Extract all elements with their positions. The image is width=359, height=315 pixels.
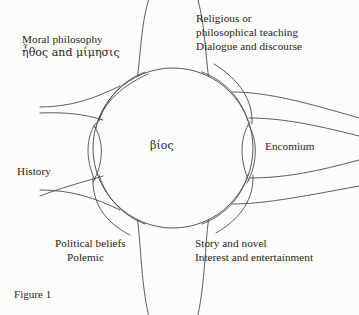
label-center-bios: βίος	[150, 139, 174, 153]
political-beliefs-line-2: Polemic	[55, 250, 126, 264]
political-beliefs-line-1: Political beliefs	[55, 236, 126, 250]
petal-lower-right-outer-curve	[232, 186, 359, 204]
petal-upper-right-outer-curve	[232, 92, 359, 118]
petal-top-left-curve	[138, 0, 149, 77]
religious-teaching-line-1: Religious or	[196, 11, 302, 25]
figure-container: βίος Moral philosophy ἦθος and μίμησις R…	[0, 0, 359, 315]
label-story-and-novel: Story and novel Interest and entertainme…	[195, 236, 313, 264]
petal-bottom-left-curve	[138, 220, 149, 315]
petal-bottom-right-curve	[198, 220, 209, 315]
label-encomium: Encomium	[265, 139, 315, 153]
petal-upper-left-inner-curve	[40, 113, 103, 120]
moral-philosophy-line-1: Moral philosophy	[22, 32, 120, 46]
moral-philosophy-line-2: ἦθος and μίμησις	[22, 46, 120, 60]
label-religious-teaching: Religious or philosophical teaching Dial…	[196, 11, 302, 54]
religious-teaching-line-2: philosophical teaching	[196, 25, 302, 39]
petal-lower-left-outer-curve	[40, 190, 120, 210]
label-political-beliefs: Political beliefs Polemic	[55, 236, 126, 264]
petal-upper-right-outer-curve-2	[249, 118, 359, 136]
label-history: History	[17, 164, 51, 178]
story-and-novel-line-2: Interest and entertainment	[195, 250, 313, 264]
petal-upper-left-lens-curve-2	[96, 74, 148, 128]
petal-lower-right-lens-curve	[202, 175, 248, 224]
center-label-text: βίος	[150, 139, 174, 153]
petal-lower-right-outer-curve-2	[250, 160, 359, 178]
petal-upper-right-lens-curve	[202, 72, 248, 121]
story-and-novel-line-1: Story and novel	[195, 236, 313, 250]
history-line-1: History	[17, 164, 51, 178]
label-moral-philosophy: Moral philosophy ἦθος and μίμησις	[22, 32, 120, 60]
figure-caption-text: Figure 1	[14, 287, 51, 301]
encomium-line-1: Encomium	[265, 139, 315, 153]
figure-caption: Figure 1	[14, 287, 51, 301]
religious-teaching-line-3: Dialogue and discourse	[196, 39, 302, 53]
